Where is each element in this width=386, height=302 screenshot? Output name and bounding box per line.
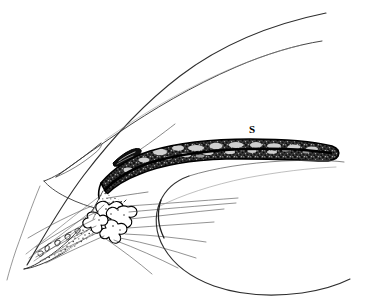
anatomy-illustration	[0, 0, 386, 302]
label-s: S	[244, 121, 260, 137]
figure-container: S	[0, 0, 386, 302]
